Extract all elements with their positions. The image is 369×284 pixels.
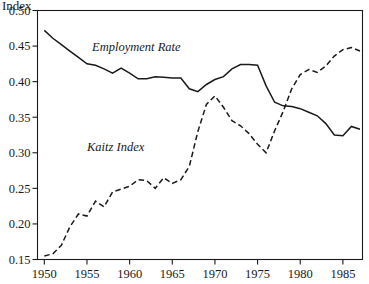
chart-canvas: 0.150.200.250.300.350.400.450.5019501955… (0, 0, 369, 284)
series-annotation: Employment Rate (91, 40, 181, 54)
x-tick-label: 1960 (117, 267, 142, 281)
x-tick-label: 1965 (160, 267, 185, 281)
y-tick-label: 0.25 (9, 182, 31, 196)
x-tick-label: 1950 (32, 267, 57, 281)
series-annotation: Kaitz Index (86, 140, 145, 154)
y-tick-label: 0.20 (9, 217, 31, 231)
plot-frame (38, 11, 363, 260)
y-tick-label: 0.15 (9, 253, 31, 267)
x-tick-label: 1970 (202, 267, 227, 281)
y-tick-label: 0.45 (9, 39, 31, 53)
y-tick-label: 0.50 (9, 4, 31, 18)
x-tick-label: 1975 (245, 267, 270, 281)
y-tick-label: 0.35 (9, 111, 31, 125)
chart-figure: Index 0.150.200.250.300.350.400.450.5019… (0, 0, 369, 284)
y-tick-label: 0.30 (9, 146, 31, 160)
x-tick-label: 1985 (330, 267, 355, 281)
x-tick-label: 1955 (74, 267, 99, 281)
x-tick-label: 1980 (288, 267, 313, 281)
y-tick-label: 0.40 (9, 75, 31, 89)
